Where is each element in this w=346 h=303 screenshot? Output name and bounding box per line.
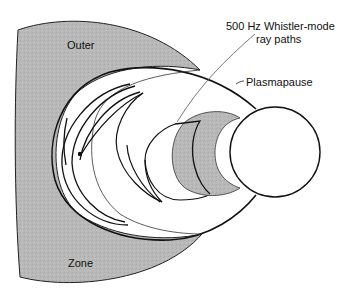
ray-paths-leader-line xyxy=(177,34,255,122)
zone-label: Zone xyxy=(68,257,93,269)
plasmapause-label: Plasmapause xyxy=(246,76,313,88)
plasmapause-leader-line xyxy=(236,81,244,84)
plasmapause-boundary xyxy=(52,68,256,240)
magnetosphere-diagram xyxy=(0,0,346,303)
ray-paths-label-line1: 500 Hz Whistler-mode xyxy=(226,20,335,32)
earth-circle xyxy=(230,107,320,197)
outer-label: Outer xyxy=(67,39,95,51)
ray-paths-inner xyxy=(116,93,162,202)
ray-paths-label-line2: ray paths xyxy=(256,33,301,45)
